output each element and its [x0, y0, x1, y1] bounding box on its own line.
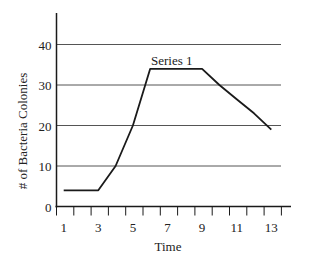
x-tick-label: 13 [265, 220, 278, 235]
axes [56, 13, 292, 208]
x-tick-label: 9 [199, 220, 206, 235]
y-axis-label: # of Bacteria Colonies [15, 73, 30, 190]
y-tick-label: 10 [39, 159, 52, 174]
x-axis-ticks: 135791113 [57, 207, 282, 235]
x-tick-label: 3 [95, 220, 102, 235]
chart-svg: 135791113 010203040 Series 1 Time # of B… [0, 0, 309, 261]
x-tick-label: 5 [130, 220, 137, 235]
y-tick-label: 0 [45, 200, 52, 215]
x-tick-label: 1 [60, 220, 67, 235]
series-line [64, 69, 272, 191]
series-lines [64, 69, 272, 191]
y-tick-label: 20 [39, 119, 52, 134]
y-axis-ticks: 010203040 [39, 38, 52, 215]
x-axis-label: Time [155, 239, 182, 254]
x-tick-label: 7 [164, 220, 171, 235]
y-tick-label: 40 [39, 38, 52, 53]
x-tick-label: 11 [230, 220, 243, 235]
y-tick-label: 30 [39, 78, 52, 93]
series-label: Series 1 [151, 53, 193, 68]
